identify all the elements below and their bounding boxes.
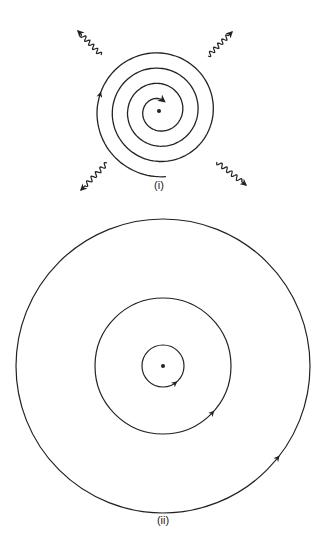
radiation-arrow-lower-left-icon <box>81 163 107 191</box>
diagram-label-ii: (ii) <box>157 514 169 526</box>
radiation-arrows <box>78 31 246 190</box>
diagram-label-i: (i) <box>154 179 164 191</box>
nucleus-dot <box>161 364 165 368</box>
nucleus-dot <box>157 109 161 113</box>
radiation-arrow-lower-right-icon <box>217 162 246 185</box>
radiation-arrow-upper-right-icon <box>208 32 232 57</box>
atom-model-figure <box>0 0 322 558</box>
diagram-spiral-electron <box>78 31 246 190</box>
electron-spiral-path <box>97 53 213 177</box>
radiation-arrow-upper-left-icon <box>78 31 102 55</box>
diagram-circular-orbits <box>16 219 310 513</box>
